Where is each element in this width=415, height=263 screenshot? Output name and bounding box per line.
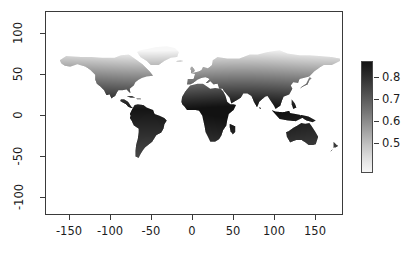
world-map-figure: 100 50 0 -50 -100 -150 -100 -50 0 50 100… xyxy=(0,0,415,263)
colorbar-tick-07 xyxy=(374,99,379,100)
colorbar-label-07: 0.7 xyxy=(382,92,400,106)
colorbar-label-05: 0.5 xyxy=(382,136,400,150)
colorbar-tick-08 xyxy=(374,77,379,78)
world-map-raster xyxy=(46,12,343,215)
colorbar-label-08: 0.8 xyxy=(382,70,400,84)
y-tick-50 xyxy=(40,74,45,75)
y-tick-0 xyxy=(40,115,45,116)
y-tick-100 xyxy=(40,33,45,34)
x-tick-150 xyxy=(315,215,316,220)
colorbar-tick-06 xyxy=(374,121,379,122)
x-tick-0 xyxy=(192,215,193,220)
y-axis-label-0: 0 xyxy=(11,107,25,123)
x-tick-neg100 xyxy=(110,215,111,220)
x-tick-100 xyxy=(274,215,275,220)
colorbar-tick-05 xyxy=(374,143,379,144)
y-axis-label-50: 50 xyxy=(11,62,25,86)
x-tick-50 xyxy=(233,215,234,220)
y-axis-label-100: 100 xyxy=(11,17,25,49)
x-axis-label-150: 150 xyxy=(291,224,339,238)
y-tick-neg50 xyxy=(40,156,45,157)
y-tick-neg100 xyxy=(40,197,45,198)
plot-frame xyxy=(45,11,343,215)
colorbar-label-06: 0.6 xyxy=(382,114,400,128)
x-tick-neg150 xyxy=(69,215,70,220)
y-axis-label-neg50: -50 xyxy=(11,141,25,171)
colorbar-gradient xyxy=(361,61,373,173)
x-tick-neg50 xyxy=(151,215,152,220)
y-axis-label-neg100: -100 xyxy=(12,179,26,216)
